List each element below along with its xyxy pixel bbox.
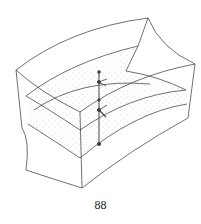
page-number: 88 (0, 198, 201, 213)
top-right-edge (148, 18, 195, 64)
right-edge (188, 64, 195, 118)
bottom-front-edge (26, 170, 82, 188)
curved-block-diagram (0, 0, 201, 224)
back-edge (138, 18, 148, 46)
left-edge (16, 70, 27, 170)
